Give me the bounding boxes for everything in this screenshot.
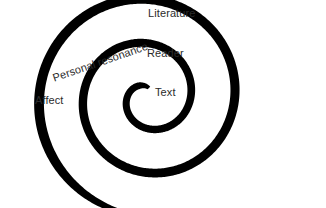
spiral-label-literature: Literature xyxy=(148,7,195,19)
spiral-label-affect: Affect xyxy=(35,94,64,106)
spiral-label-reader: Reader xyxy=(147,47,184,59)
spiral-diagram-figure: TextReaderPersonal resonanceAffectLitera… xyxy=(0,0,326,208)
spiral-path xyxy=(34,0,239,208)
spiral-label-text: Text xyxy=(155,86,176,98)
